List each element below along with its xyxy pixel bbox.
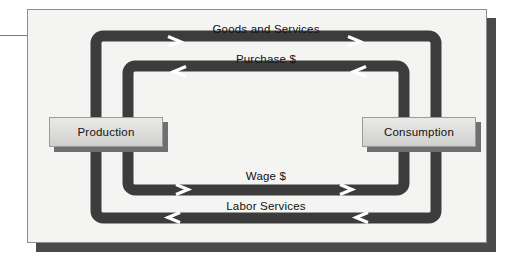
consumption-node-label: Consumption <box>384 126 454 138</box>
production-node: Production <box>49 117 163 147</box>
production-node-label: Production <box>78 126 135 138</box>
flow-label-purchase-dollars: Purchase $ <box>236 53 296 65</box>
consumption-node: Consumption <box>362 117 476 147</box>
flow-label-wage-dollars: Wage $ <box>246 170 286 182</box>
flow-label-goods-and-services: Goods and Services <box>212 23 319 35</box>
flow-label-labor-services: Labor Services <box>226 200 306 212</box>
diagram-canvas: Goods and Services Purchase $ Wage $ Lab… <box>0 0 532 261</box>
